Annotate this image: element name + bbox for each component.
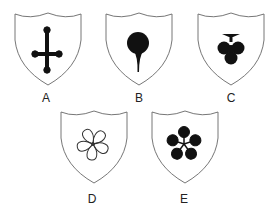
shield-d bbox=[58, 108, 130, 186]
shield-e bbox=[149, 108, 221, 186]
label-b: B bbox=[129, 91, 149, 105]
label-a: A bbox=[36, 91, 56, 105]
label-c: C bbox=[221, 91, 241, 105]
label-e: E bbox=[174, 192, 194, 206]
shield-a bbox=[12, 10, 84, 88]
shield-c bbox=[195, 10, 267, 88]
label-d: D bbox=[82, 192, 102, 206]
shield-b bbox=[103, 10, 175, 88]
